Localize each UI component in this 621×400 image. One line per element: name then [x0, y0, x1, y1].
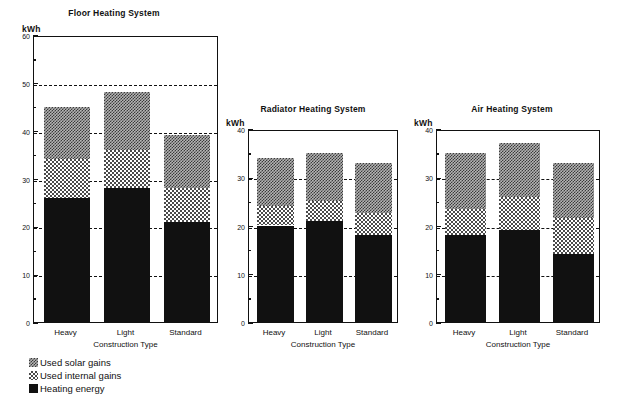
- bar-light[interactable]: [104, 35, 150, 322]
- bar-standard[interactable]: [355, 129, 392, 322]
- bar-segment-heating-energy: [306, 221, 343, 322]
- chart-title-radiator: Radiator Heating System: [222, 104, 404, 114]
- bar-standard[interactable]: [164, 35, 210, 322]
- bar-segment-used-internal-gains: [306, 201, 343, 220]
- legend: Used solar gains Used internal gains Hea…: [29, 357, 219, 396]
- bar-segment-used-internal-gains: [257, 206, 294, 225]
- y-tick-minor: [436, 250, 439, 251]
- bar-segment-heating-energy: [553, 254, 594, 322]
- y-tick-label: 0: [226, 320, 245, 327]
- y-tick-minor: [33, 59, 36, 60]
- y-tick-major: [436, 322, 441, 323]
- y-tick-minor: [248, 298, 251, 299]
- bar-heavy[interactable]: [257, 129, 294, 322]
- plot-area-air: [436, 130, 600, 323]
- chart-title-floor: Floor Heating System: [0, 8, 228, 18]
- y-tick-label: 0: [11, 320, 30, 327]
- legend-item-heating: Heating energy: [29, 383, 219, 395]
- y-tick-label: 20: [11, 224, 30, 231]
- chart-panel-floor: Floor Heating System kWh 0102030405060 H…: [0, 0, 228, 352]
- y-tick-label: 40: [414, 127, 433, 134]
- bar-segment-used-solar-gains: [306, 153, 343, 201]
- chart-panel-air: Air Heating System kWh 010203040 HeavyLi…: [408, 98, 604, 352]
- y-tick-label: 50: [11, 80, 30, 87]
- x-tick-label-heavy: Heavy: [34, 328, 98, 337]
- x-axis-title-floor: Construction Type: [33, 340, 218, 349]
- bar-standard[interactable]: [553, 129, 594, 322]
- bar-segment-used-solar-gains: [445, 153, 486, 208]
- bar-segment-used-internal-gains: [499, 197, 540, 231]
- y-tick-minor: [33, 155, 36, 156]
- bar-segment-used-solar-gains: [553, 163, 594, 218]
- bar-segment-heating-energy: [44, 198, 90, 322]
- y-tick-label: 60: [11, 33, 30, 40]
- bar-segment-used-solar-gains: [44, 107, 90, 160]
- bar-segment-heating-energy: [164, 222, 210, 322]
- figure-canvas: Floor Heating System kWh 0102030405060 H…: [0, 0, 621, 400]
- y-tick-label: 10: [226, 271, 245, 278]
- bar-segment-heating-energy: [499, 230, 540, 322]
- legend-label-internal: Used internal gains: [40, 370, 121, 382]
- y-tick-minor: [248, 202, 251, 203]
- y-tick-major: [436, 226, 441, 227]
- y-tick-major: [436, 178, 441, 179]
- bar-segment-used-internal-gains: [164, 188, 210, 221]
- legend-label-heating: Heating energy: [40, 383, 104, 395]
- bar-segment-heating-energy: [257, 226, 294, 323]
- bar-segment-used-solar-gains: [164, 135, 210, 188]
- chart-panel-radiator: Radiator Heating System kWh 010203040 He…: [222, 98, 404, 352]
- bar-light[interactable]: [306, 129, 343, 322]
- y-tick-major: [248, 274, 253, 275]
- legend-item-internal: Used internal gains: [29, 370, 219, 382]
- x-tick-label-standard: Standard: [540, 328, 604, 337]
- y-tick-minor: [33, 107, 36, 108]
- y-tick-label: 40: [226, 127, 245, 134]
- x-tick-label-light: Light: [94, 328, 158, 337]
- bar-segment-used-solar-gains: [104, 92, 150, 149]
- internal-pattern-swatch: [29, 371, 38, 380]
- y-tick-major: [436, 274, 441, 275]
- bar-segment-used-solar-gains: [499, 143, 540, 196]
- bar-segment-used-internal-gains: [104, 150, 150, 188]
- bar-light[interactable]: [499, 129, 540, 322]
- bar-segment-heating-energy: [355, 235, 392, 322]
- y-tick-label: 10: [11, 272, 30, 279]
- y-tick-minor: [33, 203, 36, 204]
- x-tick-label-standard: Standard: [154, 328, 218, 337]
- y-tick-major: [33, 227, 38, 228]
- y-tick-major: [248, 129, 253, 130]
- y-tick-minor: [436, 153, 439, 154]
- bar-segment-used-solar-gains: [257, 158, 294, 206]
- y-tick-major: [248, 226, 253, 227]
- x-axis-title-radiator: Construction Type: [248, 340, 398, 349]
- bar-segment-used-solar-gains: [355, 163, 392, 214]
- y-tick-minor: [248, 250, 251, 251]
- y-tick-label: 30: [414, 175, 433, 182]
- bar-segment-used-internal-gains: [553, 218, 594, 254]
- y-tick-major: [33, 275, 38, 276]
- y-tick-minor: [248, 153, 251, 154]
- y-tick-major: [33, 35, 38, 36]
- plot-area-radiator: [248, 130, 398, 323]
- y-tick-major: [248, 178, 253, 179]
- y-tick-label: 40: [11, 128, 30, 135]
- y-tick-label: 20: [414, 223, 433, 230]
- y-tick-label: 10: [414, 271, 433, 278]
- bar-segment-used-internal-gains: [355, 213, 392, 235]
- y-tick-label: 0: [414, 320, 433, 327]
- bar-segment-used-internal-gains: [44, 159, 90, 197]
- y-tick-major: [436, 129, 441, 130]
- bar-segment-heating-energy: [104, 188, 150, 322]
- y-tick-major: [33, 131, 38, 132]
- y-tick-minor: [436, 202, 439, 203]
- y-tick-major: [33, 179, 38, 180]
- x-tick-label-standard: Standard: [340, 328, 404, 337]
- bar-heavy[interactable]: [445, 129, 486, 322]
- bar-segment-used-internal-gains: [445, 209, 486, 236]
- solar-pattern-swatch: [29, 358, 38, 367]
- legend-label-solar: Used solar gains: [40, 357, 111, 369]
- chart-title-air: Air Heating System: [420, 104, 604, 114]
- bar-heavy[interactable]: [44, 35, 90, 322]
- y-tick-label: 30: [11, 176, 30, 183]
- y-tick-major: [33, 83, 38, 84]
